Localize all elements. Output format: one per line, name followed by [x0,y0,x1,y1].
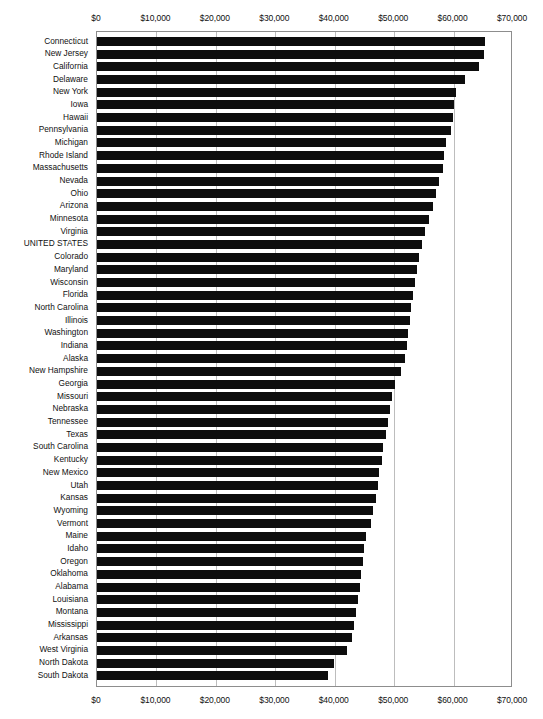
bar [97,430,386,439]
x-axis-top: $0$10,000$20,000$30,000$40,000$50,000$60… [0,13,543,27]
category-label: Oklahoma [50,568,88,578]
category-label: Maine [65,530,88,540]
bar [97,164,443,173]
bar [97,456,382,465]
x-tick-label: $60,000 [438,695,468,706]
category-label: Alaska [63,353,88,363]
category-label: Nebraska [52,403,88,413]
category-label: Georgia [58,378,88,388]
bar [97,570,361,579]
bar [97,633,352,642]
bar [97,37,485,46]
category-label: Arkansas [53,632,88,642]
bar [97,151,444,160]
bar [97,100,454,109]
category-label: Oregon [60,556,88,566]
bar [97,227,425,236]
x-tick-label: $60,000 [438,13,468,24]
bar [97,240,422,249]
category-label: Idaho [67,543,88,553]
bar [97,583,360,592]
category-label: Ohio [70,188,88,198]
category-label: Louisiana [52,594,88,604]
x-tick-label: $10,000 [140,13,170,24]
bar [97,405,390,414]
bar [97,75,465,84]
category-label: Kentucky [54,454,88,464]
x-tick-label: $50,000 [378,13,408,24]
x-tick-label: $0 [91,695,100,706]
bar [97,468,379,477]
bars-layer [97,32,511,686]
x-tick-label: $70,000 [497,695,527,706]
bar [97,671,328,680]
bar [97,494,376,503]
x-tick-label: $40,000 [319,13,349,24]
category-label: Massachusetts [33,162,88,172]
bar [97,278,415,287]
category-label: South Carolina [33,441,88,451]
bar [97,519,371,528]
category-label: Indiana [61,340,88,350]
bar [97,62,479,71]
category-label: Wisconsin [50,277,88,287]
category-label: Delaware [53,74,88,84]
category-label: Connecticut [44,36,88,46]
bar [97,265,417,274]
category-label: New Mexico [43,467,88,477]
x-tick-label: $20,000 [200,695,230,706]
bar [97,367,401,376]
bar [97,138,446,147]
category-label: Virginia [60,226,88,236]
bar [97,341,407,350]
x-tick-label: $40,000 [319,695,349,706]
category-label: Pennsylvania [39,124,88,134]
bar [97,659,334,668]
y-axis-category-labels: ConnecticutNew JerseyCaliforniaDelawareN… [0,31,92,687]
bar [97,215,429,224]
category-label: Tennessee [48,416,88,426]
category-label: Utah [70,480,88,490]
x-tick-label: $20,000 [200,13,230,24]
bar [97,177,439,186]
category-label: Texas [66,429,88,439]
category-label: Hawaii [63,112,88,122]
x-tick-label: $0 [91,13,100,24]
bar [97,253,419,262]
bar [97,113,453,122]
bar [97,329,408,338]
bar [97,532,366,541]
category-label: Minnesota [50,213,88,223]
category-label: Arizona [60,200,88,210]
x-tick-label: $50,000 [378,695,408,706]
bar [97,608,356,617]
category-label: North Carolina [35,302,89,312]
category-label: Missouri [57,391,88,401]
x-axis-bottom: $0$10,000$20,000$30,000$40,000$50,000$60… [0,695,543,709]
category-label: Florida [63,289,88,299]
bar [97,544,364,553]
category-label: Nevada [59,175,88,185]
category-label: Rhode Island [39,150,88,160]
bar-chart: $0$10,000$20,000$30,000$40,000$50,000$60… [0,0,543,719]
bar [97,354,405,363]
bar [97,443,383,452]
bar [97,88,456,97]
category-label: South Dakota [38,670,88,680]
bar [97,202,433,211]
bar [97,506,373,515]
category-label: Alabama [55,581,88,591]
category-label: Iowa [70,99,88,109]
bar [97,316,410,325]
category-label: North Dakota [39,657,88,667]
bar [97,380,395,389]
category-label: UNITED STATES [24,238,88,248]
category-label: West Virginia [39,644,88,654]
category-label: Washington [44,327,88,337]
category-label: Colorado [54,251,88,261]
x-tick-label: $10,000 [140,695,170,706]
category-label: New Jersey [45,48,88,58]
category-label: Vermont [57,518,88,528]
bar [97,646,347,655]
x-tick-label: $30,000 [259,695,289,706]
